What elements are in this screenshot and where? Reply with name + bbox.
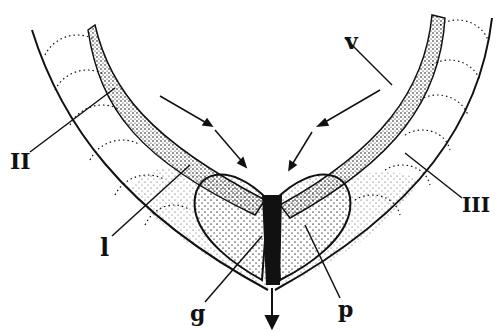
- label-III: III: [462, 195, 490, 215]
- label-g: g: [190, 302, 205, 324]
- label-II: II: [10, 150, 31, 172]
- label-p: p: [338, 298, 353, 320]
- label-v: v: [345, 30, 358, 52]
- label-I: l: [100, 236, 109, 260]
- diagram-figure: [0, 0, 503, 332]
- down-arrow-icon: [266, 288, 278, 328]
